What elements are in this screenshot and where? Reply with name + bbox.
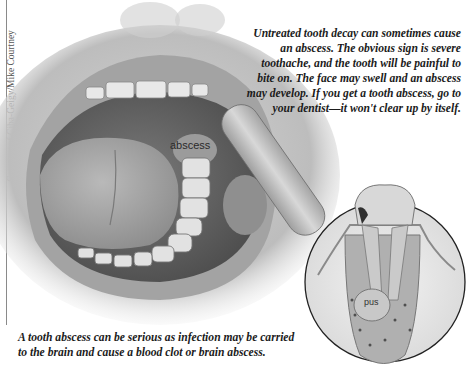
pus-label: pus (364, 297, 379, 307)
abscess-label: abscess (170, 139, 210, 151)
caption-bottom: A tooth abscess can be serious as infect… (18, 330, 298, 360)
caption-top: Untreated tooth decay can sometimes caus… (246, 26, 461, 116)
